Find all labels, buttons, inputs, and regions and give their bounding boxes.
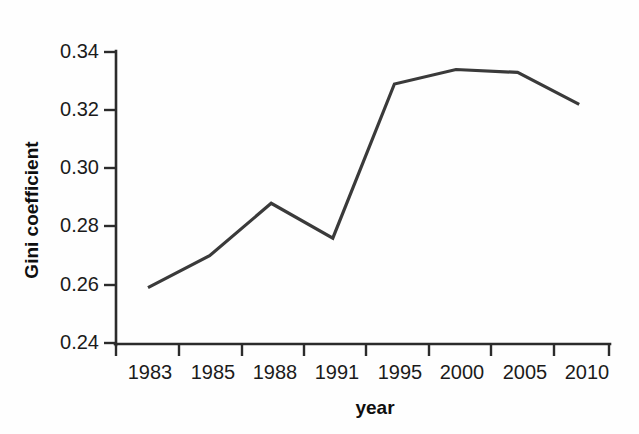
x-tick-label: 1988	[253, 361, 298, 383]
y-tick-label: 0.34	[60, 40, 99, 62]
y-tick-label: 0.32	[60, 98, 99, 120]
y-tick-label: 0.26	[60, 273, 99, 295]
y-tick-label: 0.28	[60, 214, 99, 236]
x-tick-label: 2010	[565, 361, 610, 383]
x-tick-label: 1991	[315, 361, 360, 383]
x-tick-label: 1983	[128, 361, 173, 383]
line-chart: 0.34 0.32 0.30 0.28 0.26 0.24 1983 1985 …	[0, 0, 639, 434]
x-tick-label: 1985	[191, 361, 236, 383]
y-tick-label: 0.30	[60, 156, 99, 178]
y-tick-label: 0.24	[60, 331, 99, 353]
chart-figure: 0.34 0.32 0.30 0.28 0.26 0.24 1983 1985 …	[0, 0, 639, 434]
x-tick-label: 1995	[378, 361, 423, 383]
x-tick-label: 2000	[440, 361, 485, 383]
y-axis-title: Gini coefficient	[21, 141, 42, 279]
x-tick-label: 2005	[503, 361, 548, 383]
x-axis-title: year	[355, 397, 395, 418]
